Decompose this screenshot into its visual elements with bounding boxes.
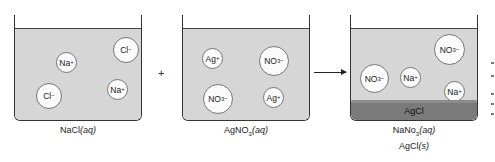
solution-agno3: Ag+ NO3− NO3− Ag+ [183, 28, 309, 120]
ion-cl-bottom-left: Cl− [36, 83, 62, 109]
label-products: NaNo3(aq) AgCl(s) [350, 124, 478, 152]
label-nacl: NaCl(aq) [14, 124, 142, 136]
beaker-agno3: Ag+ NO3− NO3− Ag+ [182, 15, 310, 121]
ion-no3-top-right: NO3− [434, 34, 465, 65]
label-agno3: AgNO3(aq) [182, 124, 310, 140]
cropped-text-fragment [491, 75, 494, 77]
ion-na-right: Na+ [444, 81, 465, 102]
ion-na-right: Na+ [107, 79, 128, 100]
beaker-products: NO3− NO3− Na+ Na+ AgCl [350, 15, 478, 121]
label-nano3: NaNo3(aq) [350, 124, 478, 140]
cropped-text-fragment [491, 113, 494, 115]
ion-ag-top-left: Ag+ [202, 48, 223, 69]
reaction-arrow [314, 72, 346, 73]
cropped-text-fragment [491, 103, 494, 105]
solution-products: NO3− NO3− Na+ Na+ AgCl [351, 28, 477, 120]
precipitate-label: AgCl [404, 106, 424, 116]
ion-na-middle: Na+ [400, 67, 421, 88]
agcl-precipitate: AgCl [351, 102, 477, 120]
ion-cl-top-right: Cl− [113, 37, 139, 63]
plus-operator: + [158, 67, 164, 79]
cropped-text-fragment [491, 62, 494, 64]
ion-no3-top-right: NO3− [259, 46, 289, 76]
ion-no3-left: NO3− [360, 64, 389, 93]
ion-no3-bottom-left: NO3− [203, 84, 233, 114]
cropped-text-fragment [491, 93, 494, 95]
ion-na-top-left: Na+ [56, 52, 77, 73]
label-agcl: AgCl(s) [350, 140, 478, 152]
beaker-nacl: Cl− Na+ Na+ Cl− [14, 15, 142, 121]
ion-ag-bottom-right: Ag+ [263, 87, 284, 108]
solution-nacl: Cl− Na+ Na+ Cl− [15, 28, 141, 120]
